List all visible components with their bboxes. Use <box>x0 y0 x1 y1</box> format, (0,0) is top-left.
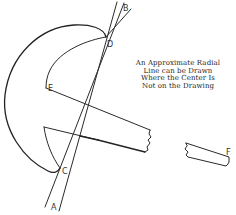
line-d-to-b <box>106 9 131 37</box>
figure-caption: An Approximate Radial Line can be Drawn … <box>122 60 234 90</box>
label-d: D <box>107 40 113 49</box>
label-f: F <box>226 148 231 157</box>
label-b: B <box>123 4 129 13</box>
radial-line-2 <box>59 2 117 211</box>
label-e: E <box>48 84 53 93</box>
fragment-f <box>185 143 229 166</box>
inner-arc <box>46 37 106 88</box>
caption-line-4: Not on the Drawing <box>122 83 234 91</box>
radial-line-ab <box>45 3 124 207</box>
bar-bottom-edge-left <box>80 136 98 140</box>
bar-bottom-edge <box>98 140 145 152</box>
label-a: A <box>51 203 57 212</box>
outer-arc <box>5 25 106 173</box>
lower-inner-arc <box>44 127 60 168</box>
radial-line-diagram: A B C D E F <box>0 0 236 215</box>
bar-top-edge <box>46 88 150 130</box>
bar-break-edge <box>145 130 151 152</box>
label-c: C <box>62 167 68 176</box>
